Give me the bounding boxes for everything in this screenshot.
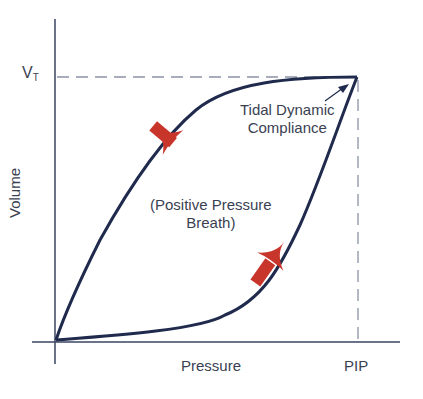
y-axis-label: Volume [6,168,23,218]
pip-axis-label: PIP [344,357,368,374]
breath-line-1: (Positive Pressure [150,196,272,214]
inspiratory-direction-arrow-icon [242,233,297,292]
x-axis-label: Pressure [181,357,241,374]
vt-main-text: V [22,64,33,81]
breath-annotation: (Positive Pressure Breath) [150,196,272,232]
compliance-pointer-line [325,88,343,101]
compliance-pointer-icon [338,84,349,93]
expiratory-direction-arrow-icon [143,114,183,155]
compliance-line-1: Tidal Dynamic [240,101,334,119]
compliance-annotation: Tidal Dynamic Compliance [240,101,334,137]
compliance-line-2: Compliance [240,119,334,137]
pressure-volume-diagram: VT Volume Pressure PIP Tidal Dynamic Com… [0,0,423,399]
vt-subscript-text: T [33,72,39,83]
breath-line-2: Breath) [150,214,272,232]
vt-axis-label: VT [22,64,39,83]
